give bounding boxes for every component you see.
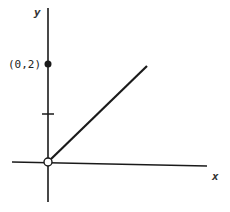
point-label-0-2: (0,2) xyxy=(8,58,41,71)
filled-point-0-2 xyxy=(45,61,52,68)
function-line xyxy=(50,66,147,160)
y-axis-label: y xyxy=(33,6,41,19)
open-circle-origin xyxy=(44,158,52,166)
x-axis-label: x xyxy=(211,170,219,183)
function-graph: y x (0,2) xyxy=(0,0,230,212)
x-axis xyxy=(12,162,207,166)
